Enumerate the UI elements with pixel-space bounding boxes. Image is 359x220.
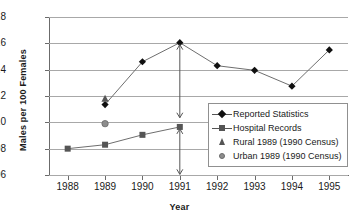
x-tick-label: 1989 [85, 181, 125, 192]
line-chart: Males per 100 Females 106108110112114116… [0, 0, 359, 220]
x-tick-label: 1995 [309, 181, 349, 192]
x-tick [255, 176, 256, 180]
legend-item-rural-1989: Rural 1989 (1990 Census) [211, 135, 344, 149]
legend-label: Rural 1989 (1990 Census) [233, 137, 339, 147]
x-tick [329, 176, 330, 180]
x-tick [292, 176, 293, 180]
x-tick-label: 1988 [48, 181, 88, 192]
data-point-triangle [101, 95, 108, 102]
triangle-marker-icon [211, 136, 233, 148]
x-tick-label: 1994 [272, 181, 312, 192]
legend-label: Hospital Records [233, 123, 302, 133]
x-axis-title: Year [0, 202, 359, 212]
data-point-square [102, 142, 108, 148]
y-tick [45, 175, 49, 176]
y-tick-label: 118 [0, 12, 6, 22]
legend-item-reported-statistics: Reported Statistics [211, 107, 344, 121]
legend-label: Urban 1989 (1990 Census) [233, 151, 342, 161]
y-tick-label: 114 [0, 65, 6, 75]
x-tick [142, 176, 143, 180]
data-point-square [139, 132, 145, 138]
y-tick-label: 116 [0, 38, 6, 48]
y-tick-label: 112 [0, 91, 6, 101]
square-marker-icon [211, 122, 233, 134]
series-line [105, 43, 329, 105]
series-line [68, 127, 180, 149]
x-tick-label: 1993 [235, 181, 275, 192]
legend-item-urban-1989: Urban 1989 (1990 Census) [211, 149, 344, 163]
y-tick-label: 110 [0, 117, 6, 127]
y-axis-title: Males per 100 Females [18, 25, 28, 175]
x-tick-label: 1991 [160, 181, 200, 192]
x-tick [68, 176, 69, 180]
x-tick [217, 176, 218, 180]
double-arrow-annotation [177, 45, 183, 118]
circle-marker-icon [211, 150, 233, 162]
x-tick-label: 1990 [122, 181, 162, 192]
x-tick [105, 176, 106, 180]
x-tick [180, 176, 181, 180]
chart-legend: Reported Statistics Hospital Records Rur… [208, 103, 348, 167]
data-point-circle [102, 120, 108, 126]
data-point-diamond [214, 62, 221, 69]
gridline [49, 175, 348, 176]
y-tick-label: 106 [0, 170, 6, 180]
data-point-diamond [251, 67, 258, 74]
data-point-square [65, 146, 71, 152]
diamond-marker-icon [211, 108, 233, 120]
x-tick-label: 1992 [197, 181, 237, 192]
y-tick-label: 108 [0, 144, 6, 154]
legend-item-hospital-records: Hospital Records [211, 121, 344, 135]
double-arrow-annotation [177, 129, 183, 174]
legend-label: Reported Statistics [233, 109, 309, 119]
